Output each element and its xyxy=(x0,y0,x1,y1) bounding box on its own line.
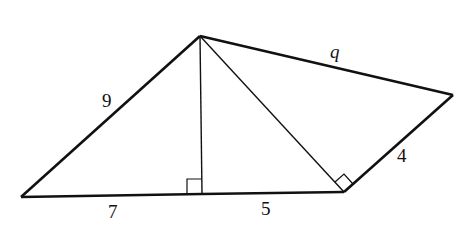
side-dc xyxy=(202,192,344,194)
side-bd xyxy=(21,194,202,197)
diagonal-ac xyxy=(200,36,344,192)
right-angle-marker-d xyxy=(187,179,202,194)
side-ae xyxy=(200,36,453,95)
geometry-diagram: 9 q 7 5 4 xyxy=(0,0,465,234)
label-side-ae: q xyxy=(330,41,340,62)
right-angle-marker-c xyxy=(335,174,353,184)
label-side-ce: 4 xyxy=(397,145,407,166)
label-side-ab: 9 xyxy=(102,90,112,111)
label-side-dc: 5 xyxy=(261,198,271,219)
side-ab xyxy=(21,36,200,197)
side-ce xyxy=(344,95,453,192)
label-side-bd: 7 xyxy=(108,201,118,222)
altitude-ad xyxy=(200,36,202,194)
